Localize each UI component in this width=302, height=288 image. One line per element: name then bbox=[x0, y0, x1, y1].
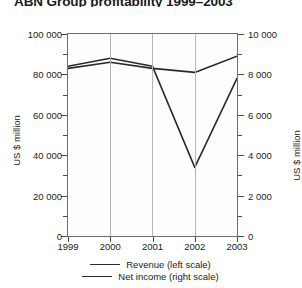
legend-line-icon bbox=[82, 276, 112, 277]
gridline-vertical bbox=[110, 34, 111, 236]
y-tick-label-right: 8 000 bbox=[248, 69, 272, 80]
y-tick-minor-left bbox=[63, 175, 67, 176]
y-tick-label-right: 6 000 bbox=[248, 109, 272, 120]
y-tick-minor-left bbox=[63, 95, 67, 96]
y-tick-right bbox=[238, 74, 244, 75]
y-tick-label-right: 10 000 bbox=[248, 29, 277, 40]
y-axis-right-title: US $ million bbox=[291, 116, 302, 196]
legend-label: Revenue (left scale) bbox=[126, 259, 210, 270]
y-tick-right bbox=[238, 115, 244, 116]
plot-inner bbox=[68, 34, 237, 236]
y-tick-minor-left bbox=[63, 135, 67, 136]
legend-label: Net income (right scale) bbox=[118, 271, 218, 282]
y-tick-label-right: 2 000 bbox=[248, 190, 272, 201]
y-tick-label-left: 0 bbox=[57, 231, 62, 242]
y-tick-minor-left bbox=[63, 54, 67, 55]
x-tick-label: 2001 bbox=[142, 241, 163, 252]
gridline-vertical bbox=[195, 34, 196, 236]
y-tick-right bbox=[238, 236, 244, 237]
y-tick-minor-right bbox=[238, 175, 242, 176]
y-tick-minor-right bbox=[238, 54, 242, 55]
chart-legend: Revenue (left scale) Net income (right s… bbox=[0, 259, 301, 282]
legend-item-net-income: Net income (right scale) bbox=[82, 271, 218, 282]
y-tick-minor-right bbox=[238, 216, 242, 217]
y-tick-label-right: 0 bbox=[248, 231, 253, 242]
y-tick-label-left: 20 000 bbox=[33, 190, 62, 201]
x-tick-label: 1999 bbox=[57, 241, 78, 252]
y-tick-right bbox=[238, 155, 244, 156]
y-tick-minor-left bbox=[63, 216, 67, 217]
chart-title: ABN Group profitability 1999–2003 bbox=[14, 0, 294, 7]
y-tick-label-left: 60 000 bbox=[33, 109, 62, 120]
y-tick-right bbox=[238, 34, 244, 35]
y-tick-right bbox=[238, 196, 244, 197]
y-tick-minor-right bbox=[238, 95, 242, 96]
y-tick-label-right: 4 000 bbox=[248, 150, 272, 161]
y-tick-label-left: 80 000 bbox=[33, 69, 62, 80]
legend-line-icon bbox=[90, 264, 120, 265]
x-tick-label: 2002 bbox=[184, 241, 205, 252]
x-tick-label: 2000 bbox=[100, 241, 121, 252]
y-tick-label-left: 40 000 bbox=[33, 150, 62, 161]
gridline-vertical bbox=[152, 34, 153, 236]
y-axis-left-title: US $ million bbox=[11, 101, 22, 181]
x-tick-label: 2003 bbox=[226, 241, 247, 252]
y-tick-minor-right bbox=[238, 135, 242, 136]
y-tick-label-left: 100 000 bbox=[28, 29, 62, 40]
chart-container: ABN Group profitability 1999–2003 020 00… bbox=[0, 0, 301, 288]
plot-area bbox=[67, 33, 238, 237]
legend-item-revenue: Revenue (left scale) bbox=[90, 259, 210, 270]
